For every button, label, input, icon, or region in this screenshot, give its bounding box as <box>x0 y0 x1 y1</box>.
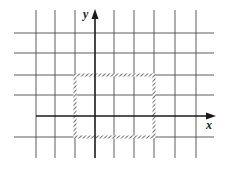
x-axis <box>36 113 216 120</box>
y-axis-arrow-icon <box>92 9 99 19</box>
hatched-rectangle <box>75 75 154 137</box>
x-axis-label: x <box>205 118 212 132</box>
y-axis-label: y <box>81 7 89 21</box>
coordinate-grid-diagram: x y <box>0 0 226 170</box>
